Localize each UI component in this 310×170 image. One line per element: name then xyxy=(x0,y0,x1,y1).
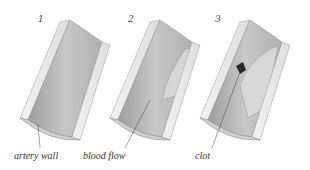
panel-number-1: 1 xyxy=(38,14,44,24)
artery-2 xyxy=(110,20,200,148)
artery-3 xyxy=(200,20,290,148)
artery-1 xyxy=(20,20,110,148)
panel-number-3: 3 xyxy=(215,14,221,24)
label-blood-flow: blood flow xyxy=(83,150,126,161)
artery-diagram: 1 2 3 artery wall blood flow clot xyxy=(0,0,310,170)
label-artery-wall: artery wall xyxy=(14,150,58,161)
panel-number-2: 2 xyxy=(128,14,134,24)
label-clot: clot xyxy=(195,150,210,161)
artery-illustration xyxy=(0,0,310,170)
